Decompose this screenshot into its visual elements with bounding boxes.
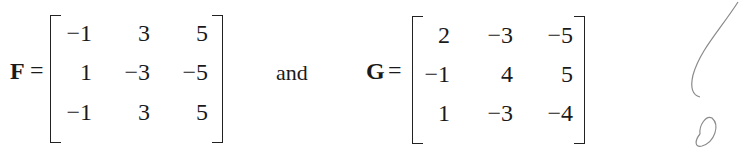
handwritten-scribble-icon (0, 0, 741, 151)
